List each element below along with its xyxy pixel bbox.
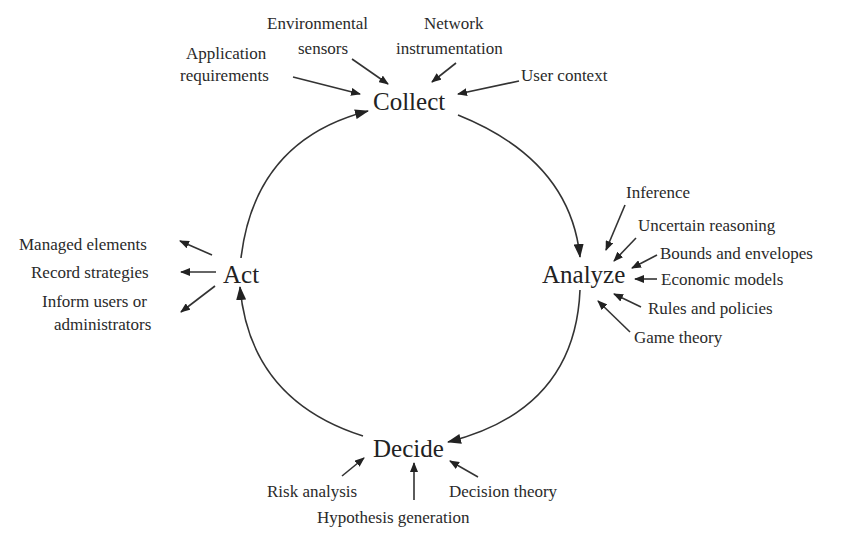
arrow-game-theory [598, 301, 630, 332]
cycle-diagram: Collect Analyze Decide Act Application r… [0, 0, 855, 548]
label-record-strategies: Record strategies [31, 263, 149, 282]
arrow-rules-and-policies [614, 294, 641, 307]
arrow-risk-analysis [342, 458, 364, 476]
arrow-environmental-sensors [352, 59, 388, 84]
label-environmental-sensors-2: sensors [298, 39, 348, 58]
arc-collect-to-analyze [458, 115, 580, 257]
label-hypothesis-generation: Hypothesis generation [317, 508, 470, 527]
arrow-inference [606, 205, 625, 250]
label-risk-analysis: Risk analysis [267, 482, 357, 501]
label-network-instrumentation-1: Network [424, 14, 484, 33]
arrow-application-requirements [293, 77, 360, 94]
arrow-inform-users [181, 286, 215, 312]
label-user-context: User context [521, 66, 608, 85]
arrow-uncertain-reasoning [614, 238, 636, 261]
arrow-user-context [458, 81, 519, 94]
label-network-instrumentation-2: instrumentation [396, 39, 503, 58]
diagram-canvas: Collect Analyze Decide Act Application r… [0, 0, 855, 548]
label-game-theory: Game theory [634, 328, 723, 347]
label-decision-theory: Decision theory [449, 482, 558, 501]
stage-collect: Collect [373, 88, 445, 115]
arrow-bounds-and-envelopes [632, 255, 657, 268]
stage-analyze: Analyze [542, 261, 625, 288]
label-economic-models: Economic models [661, 270, 783, 289]
label-inference: Inference [626, 183, 690, 202]
stage-decide: Decide [373, 435, 444, 462]
label-uncertain-reasoning: Uncertain reasoning [638, 216, 776, 235]
arc-analyze-to-decide [448, 290, 580, 442]
arrow-network-instrumentation [432, 63, 456, 82]
arrow-managed-elements [180, 241, 212, 255]
label-application-requirements-1: Application [186, 44, 267, 63]
arrow-decision-theory [450, 461, 478, 477]
label-inform-users-2: administrators [54, 315, 151, 334]
arc-decide-to-act [240, 287, 363, 436]
stage-act: Act [223, 261, 259, 288]
arc-act-to-collect [241, 111, 368, 258]
label-managed-elements: Managed elements [19, 235, 147, 254]
label-inform-users-1: Inform users or [42, 292, 147, 311]
label-bounds-and-envelopes: Bounds and envelopes [660, 244, 813, 263]
label-environmental-sensors-1: Environmental [267, 14, 368, 33]
label-rules-and-policies: Rules and policies [648, 299, 773, 318]
label-application-requirements-2: requirements [180, 66, 269, 85]
